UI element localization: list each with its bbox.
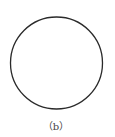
circle-outline (11, 17, 103, 109)
figure-caption: （b） (0, 118, 112, 133)
circle-diagram (0, 0, 115, 137)
figure-b: （b） (0, 0, 115, 137)
